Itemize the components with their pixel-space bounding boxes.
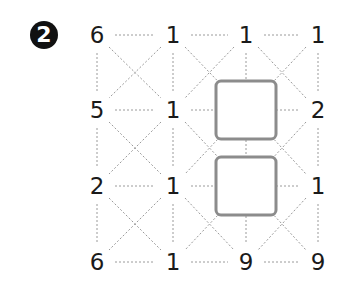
answer-box[interactable]	[216, 81, 276, 139]
answer-box[interactable]	[216, 157, 276, 215]
answer-boxes	[0, 0, 342, 282]
puzzle-diagram: 2 61115122116199	[0, 0, 342, 282]
